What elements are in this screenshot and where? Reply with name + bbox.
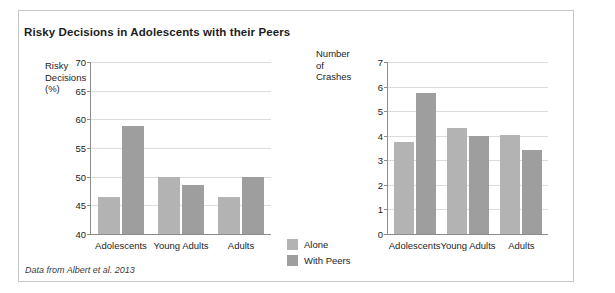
plot-area-right: 01234567AdolescentsYoung AdultsAdults <box>387 62 548 235</box>
y-tick-label: 2 <box>378 179 383 190</box>
y-tick-label: 5 <box>378 106 383 117</box>
y-tick-mark <box>87 234 91 235</box>
legend-swatch-alone <box>287 239 298 250</box>
source-note: Data from Albert et al. 2013 <box>25 265 135 275</box>
x-axis-category-label: Adolescents <box>389 240 441 251</box>
legend-swatch-with-peers <box>287 255 298 266</box>
y-tick-label: 55 <box>75 143 86 154</box>
x-axis-category-label: Adults <box>508 240 534 251</box>
bar <box>242 177 264 234</box>
y-tick-mark <box>384 234 388 235</box>
gridline <box>91 119 271 120</box>
x-axis-category-label: Young Adults <box>440 240 495 251</box>
legend-item: With Peers <box>287 254 350 267</box>
legend-item: Alone <box>287 238 350 251</box>
legend: Alone With Peers <box>287 238 350 270</box>
x-axis-category-label: Adolescents <box>95 240 147 251</box>
y-tick-label: 45 <box>75 200 86 211</box>
bar <box>218 197 240 234</box>
y-tick-mark <box>384 111 388 112</box>
y-tick-label: 50 <box>75 171 86 182</box>
bar <box>182 185 204 234</box>
bar <box>416 93 436 234</box>
bar <box>447 128 467 234</box>
y-tick-label: 70 <box>75 57 86 68</box>
y-tick-mark <box>384 209 388 210</box>
bar <box>500 135 520 235</box>
gridline <box>388 136 548 137</box>
gridline <box>388 62 548 63</box>
y-tick-label: 40 <box>75 229 86 240</box>
y-tick-label: 3 <box>378 155 383 166</box>
y-tick-label: 4 <box>378 130 383 141</box>
legend-label-alone: Alone <box>304 239 328 250</box>
y-tick-mark <box>87 205 91 206</box>
y-tick-label: 7 <box>378 57 383 68</box>
y-tick-mark <box>87 148 91 149</box>
gridline <box>91 91 271 92</box>
legend-label-with-peers: With Peers <box>304 255 350 266</box>
gridline <box>91 62 271 63</box>
y-tick-mark <box>384 62 388 63</box>
bar <box>469 136 489 234</box>
gridline <box>388 87 548 88</box>
gridline <box>91 148 271 149</box>
plot-area-left: 40455055606570AdolescentsYoung AdultsAdu… <box>90 62 271 235</box>
y-tick-mark <box>87 62 91 63</box>
bar <box>394 142 414 234</box>
figure-title: Risky Decisions in Adolescents with thei… <box>24 26 290 38</box>
y-tick-mark <box>87 91 91 92</box>
y-tick-mark <box>384 136 388 137</box>
y-tick-label: 60 <box>75 114 86 125</box>
bar <box>98 197 120 234</box>
bar <box>122 126 144 234</box>
gridline <box>388 111 548 112</box>
y-tick-mark <box>384 185 388 186</box>
y-tick-label: 1 <box>378 204 383 215</box>
y-axis-label-right: Number of Crashes <box>316 48 351 83</box>
y-tick-mark <box>384 87 388 88</box>
y-tick-label: 65 <box>75 85 86 96</box>
x-axis-category-label: Adults <box>228 240 254 251</box>
y-tick-mark <box>87 177 91 178</box>
y-tick-mark <box>87 119 91 120</box>
y-tick-label: 0 <box>378 229 383 240</box>
bar <box>522 150 542 234</box>
y-tick-label: 6 <box>378 81 383 92</box>
bar <box>158 177 180 234</box>
y-tick-mark <box>384 160 388 161</box>
x-axis-category-label: Young Adults <box>153 240 208 251</box>
